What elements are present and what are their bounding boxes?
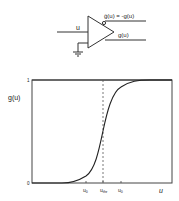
x-axis-label: u	[159, 187, 163, 194]
input-label: u	[76, 24, 80, 31]
x-tick-u0-left: u0	[83, 187, 88, 194]
amplifier-symbol	[57, 16, 146, 56]
inverted-output-label: ḡ(u) = -g(u)	[104, 13, 134, 19]
diagram-canvas: u ḡ(u) = -g(u) g(u) g(u) 1 0 u0 uthr u0 …	[0, 0, 179, 201]
ground-wire	[78, 43, 88, 52]
plot-frame	[32, 80, 172, 183]
x-tick-uthr: uthr	[100, 187, 108, 194]
ground-icon	[73, 52, 83, 56]
y-tick-1: 1	[27, 78, 30, 83]
output-label: g(u)	[118, 32, 129, 38]
inverting-output-bubble	[102, 21, 105, 24]
sigmoid-curve	[32, 80, 172, 183]
y-tick-0: 0	[27, 181, 30, 186]
y-axis-label: g(u)	[8, 94, 20, 102]
plot-area	[32, 80, 172, 183]
x-tick-u0-right: u0	[118, 187, 123, 194]
